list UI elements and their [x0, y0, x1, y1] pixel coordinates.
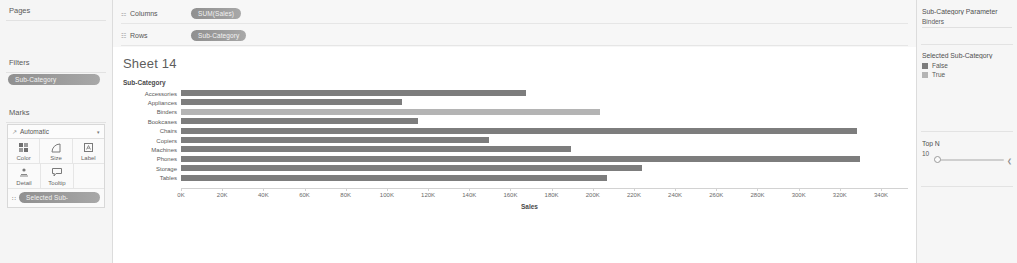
divider [6, 20, 106, 21]
marks-detail-label: Detail [16, 180, 31, 186]
y-axis-label[interactable]: Tables [160, 175, 177, 181]
parameter-dropdown[interactable]: Binders [922, 18, 1012, 28]
legend-item-true[interactable]: True [922, 71, 1012, 78]
legend-swatch-true [922, 72, 928, 78]
left-shelf-panel: Pages Filters Sub-Category Marks ↗ Autom… [0, 0, 113, 263]
columns-shelf[interactable]: ⚏ Columns SUM(Sales) [113, 2, 916, 24]
x-axis-tick-label: 140K [462, 192, 476, 198]
topn-slider-arrow[interactable]: ❮ [1007, 157, 1012, 164]
x-axis-tick-label: 60K [299, 192, 310, 198]
marks-label-label: Label [81, 155, 96, 161]
mark-type-icon: ↗ [12, 128, 17, 135]
marks-pill-icon: ∷ [12, 194, 16, 201]
bar-mark[interactable] [181, 156, 860, 162]
rows-drop-zone[interactable]: Sub-Category [191, 28, 916, 42]
page-title: Sheet 14 [123, 56, 177, 71]
topn-title: Top N [922, 140, 1012, 147]
marks-tooltip-button[interactable]: Tooltip [41, 164, 74, 188]
divider [6, 72, 106, 73]
axis-tick [428, 188, 429, 191]
divider [921, 131, 1013, 132]
detail-icon [18, 167, 29, 178]
y-axis-labels: AccessoriesAppliancesBindersBookcasesCha… [113, 88, 180, 188]
filter-pill-sub-category[interactable]: Sub-Category [8, 74, 100, 85]
bar-mark[interactable] [181, 118, 418, 124]
bar-mark[interactable] [181, 99, 402, 105]
y-axis-label[interactable]: Accessories [145, 91, 177, 97]
tableau-worksheet: Pages Filters Sub-Category Marks ↗ Autom… [0, 0, 1017, 263]
marks-color-label: Color [16, 155, 30, 161]
y-axis-label[interactable]: Phones [157, 156, 177, 162]
bar-mark[interactable] [181, 90, 526, 96]
marks-label-button[interactable]: Label [73, 139, 104, 163]
x-axis-tick-label: 260K [709, 192, 723, 198]
x-axis-tick-label: 20K [217, 192, 228, 198]
columns-pill-sum-sales[interactable]: SUM(Sales) [191, 8, 241, 19]
axis-tick [881, 188, 882, 191]
parameter-card-title: Sub-Category Parameter [922, 8, 1012, 15]
y-axis-label[interactable]: Chairs [160, 128, 177, 134]
y-axis-label[interactable]: Copiers [156, 138, 177, 144]
bar-mark[interactable] [181, 109, 600, 115]
x-axis-tick-label: 0K [177, 192, 184, 198]
y-axis-label[interactable]: Bookcases [148, 119, 177, 125]
marks-pill-row: ∷ Selected Sub- [8, 189, 104, 207]
bar-mark[interactable] [181, 146, 571, 152]
y-axis-label[interactable]: Appliances [148, 100, 177, 106]
columns-drop-zone[interactable]: SUM(Sales) [191, 6, 916, 20]
x-axis-tick-label: 340K [874, 192, 888, 198]
axis-tick [387, 188, 388, 191]
topn-slider-knob[interactable] [934, 156, 941, 163]
worksheet-canvas: Sheet 14 Sub-Category AccessoriesApplian… [113, 47, 916, 263]
marks-size-button[interactable]: Size [40, 139, 72, 163]
y-axis-label[interactable]: Binders [157, 109, 177, 115]
marks-card-label: Marks [0, 108, 29, 117]
bar-mark[interactable] [181, 175, 607, 181]
mark-type-value: Automatic [20, 128, 94, 135]
x-axis-tick-label: 40K [258, 192, 269, 198]
color-icon [18, 142, 29, 153]
color-legend-card: Selected Sub-Category False True [917, 48, 1017, 82]
x-axis-tick-label: 240K [668, 192, 682, 198]
x-axis-tick-label: 220K [627, 192, 641, 198]
axis-tick [840, 188, 841, 191]
divider [121, 45, 908, 46]
topn-slider-track[interactable] [936, 159, 1004, 161]
x-axis-tick-label: 120K [421, 192, 435, 198]
legend-swatch-false [922, 63, 928, 69]
shelf-bar: ⚏ Columns SUM(Sales) ☷ Rows Sub-Category [113, 0, 916, 48]
mark-type-dropdown[interactable]: ↗ Automatic ▾ [8, 125, 104, 139]
topn-slider[interactable]: 10 ❮ [922, 150, 1012, 166]
marks-color-button[interactable]: Color [8, 139, 40, 163]
rows-label: Rows [130, 32, 148, 39]
bar-chart-plot: AccessoriesAppliancesBindersBookcasesCha… [113, 88, 916, 188]
marks-pill-selected-sub-category[interactable]: Selected Sub- [19, 192, 100, 203]
bar-mark[interactable] [181, 165, 642, 171]
axis-tick [469, 188, 470, 191]
x-axis-tick-label: 320K [833, 192, 847, 198]
y-axis-label[interactable]: Storage [156, 166, 177, 172]
bar-mark[interactable] [181, 128, 857, 134]
bar-series [181, 88, 916, 188]
x-axis-tick-label: 200K [586, 192, 600, 198]
rows-shelf[interactable]: ☷ Rows Sub-Category [113, 24, 916, 46]
y-axis-label[interactable]: Machines [151, 147, 177, 153]
tooltip-icon [51, 167, 62, 178]
legend-label-false: False [932, 62, 948, 69]
axis-tick [593, 188, 594, 191]
axis-tick [263, 188, 264, 191]
rows-shelf-label-group: ☷ Rows [113, 32, 191, 39]
rows-pill-sub-category[interactable]: Sub-Category [191, 30, 246, 41]
spacer [74, 164, 106, 188]
axis-tick [799, 188, 800, 191]
marks-button-row-2: Detail Tooltip [8, 164, 104, 189]
marks-detail-button[interactable]: Detail [8, 164, 41, 188]
axis-tick [181, 188, 182, 191]
x-axis-tick-label: 180K [545, 192, 559, 198]
axis-tick [510, 188, 511, 191]
bar-mark[interactable] [181, 137, 489, 143]
axis-tick [757, 188, 758, 191]
label-icon [83, 142, 94, 153]
topn-parameter-card: Top N 10 ❮ [917, 136, 1017, 170]
legend-item-false[interactable]: False [922, 62, 1012, 69]
